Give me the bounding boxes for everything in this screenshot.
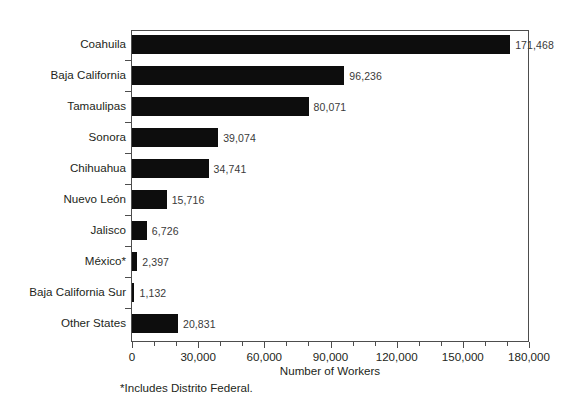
x-axis-major-tick xyxy=(132,342,133,348)
x-axis-minor-tick xyxy=(441,342,442,346)
bar-row[interactable]: 6,726 xyxy=(132,221,529,240)
x-axis-tick-label: 90,000 xyxy=(313,350,348,363)
bar-value-label: 1,132 xyxy=(139,287,166,299)
bar[interactable] xyxy=(132,221,147,240)
y-axis-tick xyxy=(125,122,131,123)
y-axis-tick xyxy=(125,60,131,61)
x-axis-major-tick xyxy=(397,342,398,348)
bar[interactable] xyxy=(132,128,218,147)
bar-row[interactable]: 2,397 xyxy=(132,252,529,271)
y-axis-tick xyxy=(125,215,131,216)
x-axis-major-tick xyxy=(529,342,530,348)
y-axis-category-label: Chihuahua xyxy=(0,161,126,174)
bar-row[interactable]: 1,132 xyxy=(132,283,529,302)
bar-row[interactable]: 20,831 xyxy=(132,314,529,333)
bar[interactable] xyxy=(132,252,137,271)
x-axis-title: Number of Workers xyxy=(280,364,380,377)
bar-value-label: 34,741 xyxy=(214,163,247,175)
x-axis-tick-label: 180,000 xyxy=(508,350,550,363)
bars-layer: 171,46896,23680,07139,07434,74115,7166,7… xyxy=(132,31,529,341)
x-axis-tick-label: 0 xyxy=(129,350,135,363)
x-axis-minor-tick xyxy=(176,342,177,346)
x-axis-tick-label: 30,000 xyxy=(180,350,215,363)
bar-value-label: 2,397 xyxy=(142,256,169,268)
bar-value-label: 96,236 xyxy=(349,70,382,82)
bar-value-label: 80,071 xyxy=(314,101,347,113)
y-axis-category-label: Sonora xyxy=(0,130,126,143)
y-axis-category-label: Nuevo León xyxy=(0,192,126,205)
bar-row[interactable]: 15,716 xyxy=(132,190,529,209)
y-axis-tick xyxy=(125,91,131,92)
y-axis-category-label: Tamaulipas xyxy=(0,99,126,112)
bar-row[interactable]: 171,468 xyxy=(132,35,529,54)
y-axis-tick xyxy=(125,184,131,185)
bar-value-label: 20,831 xyxy=(183,318,216,330)
bar[interactable] xyxy=(132,35,510,54)
x-axis-minor-tick xyxy=(308,342,309,346)
bar-row[interactable]: 34,741 xyxy=(132,159,529,178)
x-axis-minor-tick xyxy=(507,342,508,346)
y-axis-category-label: Baja California xyxy=(0,68,126,81)
x-axis-minor-tick xyxy=(154,342,155,346)
x-axis-minor-tick xyxy=(419,342,420,346)
bar[interactable] xyxy=(132,66,344,85)
y-axis-tick xyxy=(125,308,131,309)
x-axis-minor-tick xyxy=(220,342,221,346)
bar-chart: CoahuilaBaja CaliforniaTamaulipasSonoraC… xyxy=(0,0,578,416)
bar[interactable] xyxy=(132,159,209,178)
y-axis-category-label: Baja California Sur xyxy=(0,285,126,298)
bar-value-label: 39,074 xyxy=(223,132,256,144)
bar[interactable] xyxy=(132,190,167,209)
x-axis-major-tick xyxy=(331,342,332,348)
x-axis-major-tick xyxy=(264,342,265,348)
bar[interactable] xyxy=(132,314,178,333)
bar-row[interactable]: 80,071 xyxy=(132,97,529,116)
bar-value-label: 6,726 xyxy=(152,225,179,237)
x-axis-tick-label: 60,000 xyxy=(247,350,282,363)
x-axis-minor-tick xyxy=(242,342,243,346)
bar[interactable] xyxy=(132,283,134,302)
bar-row[interactable]: 96,236 xyxy=(132,66,529,85)
x-axis-tick-label: 150,000 xyxy=(442,350,484,363)
x-axis-minor-tick xyxy=(485,342,486,346)
y-axis-tick xyxy=(125,246,131,247)
y-axis-tick xyxy=(125,153,131,154)
bar-row[interactable]: 39,074 xyxy=(132,128,529,147)
y-axis-category-label: Coahuila xyxy=(0,37,126,50)
y-axis-category-label: Jalisco xyxy=(0,223,126,236)
x-axis-major-tick xyxy=(198,342,199,348)
x-axis-minor-tick xyxy=(375,342,376,346)
chart-footnote: *Includes Distrito Federal. xyxy=(120,381,253,394)
x-axis-minor-tick xyxy=(353,342,354,346)
bar-value-label: 15,716 xyxy=(172,194,205,206)
x-axis-tick-label: 120,000 xyxy=(376,350,418,363)
x-axis-major-tick xyxy=(463,342,464,348)
y-axis-tick xyxy=(125,277,131,278)
y-axis-category-label: México* xyxy=(0,254,126,267)
bar-value-label: 171,468 xyxy=(515,39,554,51)
bar[interactable] xyxy=(132,97,309,116)
x-axis-minor-tick xyxy=(286,342,287,346)
y-axis-category-label: Other States xyxy=(0,316,126,329)
